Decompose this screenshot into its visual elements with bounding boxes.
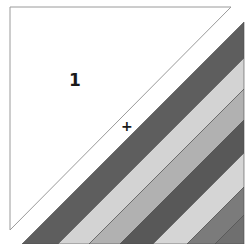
piece-number-label: 1 (69, 70, 81, 90)
center-mark-icon: + (121, 119, 133, 133)
